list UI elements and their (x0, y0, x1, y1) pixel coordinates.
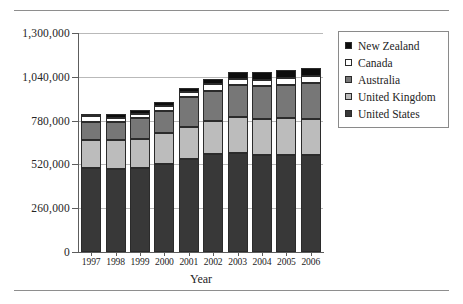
legend-label-canada: Canada (358, 57, 392, 69)
plot-area: 0260,000520,000780,0001,040,0001,300,000 (79, 33, 323, 252)
bar-segment-uk (301, 119, 321, 155)
bar-segment-us (81, 168, 101, 252)
bar-segment-nz (179, 88, 199, 93)
bar-segment-uk (228, 117, 248, 153)
y-axis-tick-label: 0 (64, 246, 70, 258)
bar-segment-au (179, 97, 199, 126)
bar-2005[interactable] (276, 33, 296, 252)
bar-segment-au (81, 122, 101, 140)
bar-segment-ca (301, 76, 321, 83)
y-axis-tick (72, 33, 78, 34)
y-axis-tick-label: 260,000 (31, 202, 70, 214)
chart-figure: 0260,000520,000780,0001,040,0001,300,000… (0, 0, 463, 304)
bar-segment-ca (179, 92, 199, 97)
y-axis-tick-label: 520,000 (31, 158, 70, 170)
bar-segment-uk (130, 139, 150, 168)
legend-item-united-kingdom[interactable]: United Kingdom (345, 88, 444, 105)
legend-label-united-states: United States (358, 108, 420, 120)
legend-item-new-zealand[interactable]: New Zealand (345, 37, 444, 54)
bar-segment-us (130, 168, 150, 252)
legend-item-australia[interactable]: Australia (345, 71, 444, 88)
y-axis-tick (72, 252, 78, 253)
legend-swatch-canada (345, 59, 352, 66)
legend-swatch-united-states (345, 110, 352, 117)
bar-segment-au (252, 86, 272, 119)
bar-1999[interactable] (130, 33, 150, 252)
bar-segment-au (154, 111, 174, 134)
bar-segment-ca (154, 106, 174, 111)
legend-label-australia: Australia (358, 74, 400, 86)
bar-segment-us (203, 154, 223, 252)
bar-segment-ca (81, 116, 101, 122)
bar-segment-au (276, 85, 296, 118)
bar-segment-ca (203, 84, 223, 92)
y-axis-tick-label: 1,040,000 (22, 71, 70, 83)
bar-segment-nz (130, 110, 150, 114)
bar-segment-us (106, 169, 126, 252)
bar-segment-uk (252, 119, 272, 155)
bar-segment-ca (130, 114, 150, 118)
bar-segment-us (228, 153, 248, 252)
bar-segment-au (106, 122, 126, 140)
bar-segment-uk (203, 121, 223, 155)
bar-segment-nz (203, 79, 223, 84)
bar-1998[interactable] (106, 33, 126, 252)
bar-segment-uk (154, 133, 174, 164)
bar-segment-nz (301, 68, 321, 76)
bar-segment-au (203, 91, 223, 120)
bar-2001[interactable] (179, 33, 199, 252)
bar-segment-uk (81, 140, 101, 168)
bar-segment-ca (106, 118, 126, 122)
legend-swatch-united-kingdom (345, 93, 352, 100)
bar-segment-us (276, 155, 296, 252)
bar-2000[interactable] (154, 33, 174, 252)
bar-segment-ca (276, 78, 296, 85)
bar-segment-nz (154, 102, 174, 106)
y-axis-tick (72, 121, 78, 122)
legend-swatch-australia (345, 76, 352, 83)
bar-segment-us (301, 155, 321, 252)
legend: New Zealand Canada Australia United King… (338, 31, 449, 128)
legend-label-united-kingdom: United Kingdom (358, 91, 436, 103)
bar-segment-au (301, 83, 321, 119)
y-axis-tick-label: 780,000 (31, 115, 70, 127)
bar-segment-au (228, 85, 248, 117)
bar-segment-uk (276, 118, 296, 155)
legend-item-canada[interactable]: Canada (345, 54, 444, 71)
bar-segment-au (130, 118, 150, 139)
legend-item-united-states[interactable]: United States (345, 105, 444, 122)
bar-segment-ca (228, 79, 248, 85)
bottom-divider-rule (14, 290, 449, 291)
x-axis-tick-label: 2006 (294, 256, 328, 267)
legend-label-new-zealand: New Zealand (358, 40, 420, 52)
bar-segment-nz (252, 72, 272, 80)
bar-1997[interactable] (81, 33, 101, 252)
bar-2006[interactable] (301, 33, 321, 252)
legend-swatch-new-zealand (345, 42, 352, 49)
bar-segment-uk (106, 140, 126, 169)
bar-segment-us (179, 159, 199, 252)
bar-segment-us (252, 155, 272, 252)
y-axis-tick (72, 208, 78, 209)
bar-segment-us (154, 164, 174, 252)
x-axis-title: Year (79, 272, 323, 287)
y-axis-tick-label: 1,300,000 (22, 27, 70, 39)
top-divider-rule (14, 10, 449, 11)
bar-segment-ca (252, 80, 272, 86)
bar-segment-nz (81, 114, 101, 116)
bar-segment-nz (106, 114, 126, 118)
y-axis-tick (72, 164, 78, 165)
bar-2002[interactable] (203, 33, 223, 252)
bar-segment-nz (276, 70, 296, 78)
bar-2004[interactable] (252, 33, 272, 252)
bar-segment-nz (228, 72, 248, 79)
bar-segment-uk (179, 127, 199, 160)
y-axis-tick (72, 77, 78, 78)
bar-2003[interactable] (228, 33, 248, 252)
